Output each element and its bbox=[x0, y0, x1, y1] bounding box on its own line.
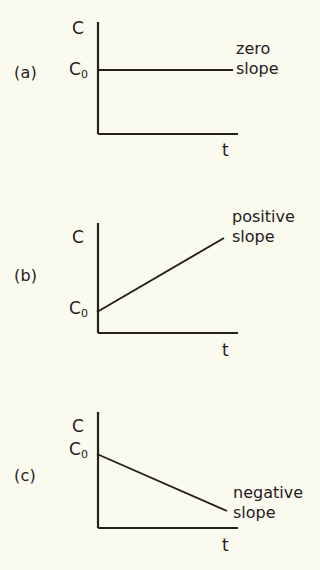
panel-b-intercept-label: C0 bbox=[69, 298, 88, 318]
panel-c-annotation-line2: slope bbox=[233, 503, 303, 523]
panel-c-intercept-label: C0 bbox=[69, 439, 88, 459]
panel-a-intercept-subscript: 0 bbox=[81, 68, 88, 81]
panel-a: (a) C C0 t zero slope bbox=[0, 0, 320, 190]
slope-figure: (a) C C0 t zero slope (b) C C0 t positiv… bbox=[0, 0, 320, 570]
panel-a-annotation-line1: zero bbox=[236, 39, 279, 59]
panel-b-data-line bbox=[97, 238, 224, 312]
panel-c-label: (c) bbox=[14, 466, 36, 485]
panel-a-x-axis-label: t bbox=[222, 140, 229, 160]
panel-c-intercept-symbol: C bbox=[69, 439, 81, 459]
panel-a-annotation-line2: slope bbox=[236, 59, 279, 79]
panel-b-intercept-subscript: 0 bbox=[81, 307, 88, 320]
panel-a-intercept-label: C0 bbox=[69, 59, 88, 79]
panel-b-y-axis-label: C bbox=[72, 227, 84, 247]
panel-b-annotation-line1: positive bbox=[232, 207, 295, 227]
panel-c-plot bbox=[0, 380, 320, 570]
panel-c-y-axis-label: C bbox=[72, 416, 84, 436]
panel-c-data-line bbox=[97, 454, 227, 511]
panel-c-annotation: negative slope bbox=[233, 483, 303, 523]
panel-a-label: (a) bbox=[14, 63, 37, 82]
panel-b-x-axis-label: t bbox=[222, 340, 229, 360]
panel-c-x-axis-label: t bbox=[222, 535, 229, 555]
panel-b-intercept-symbol: C bbox=[69, 298, 81, 318]
panel-a-annotation: zero slope bbox=[236, 39, 279, 79]
panel-b-annotation: positive slope bbox=[232, 207, 295, 247]
panel-c: (c) C C0 t negative slope bbox=[0, 380, 320, 570]
panel-b-label: (b) bbox=[14, 266, 37, 285]
panel-b-annotation-line2: slope bbox=[232, 227, 295, 247]
panel-b: (b) C C0 t positive slope bbox=[0, 190, 320, 380]
panel-c-intercept-subscript: 0 bbox=[81, 448, 88, 461]
panel-c-annotation-line1: negative bbox=[233, 483, 303, 503]
panel-a-intercept-symbol: C bbox=[69, 59, 81, 79]
panel-a-plot bbox=[0, 0, 320, 190]
panel-a-y-axis-label: C bbox=[72, 18, 84, 38]
